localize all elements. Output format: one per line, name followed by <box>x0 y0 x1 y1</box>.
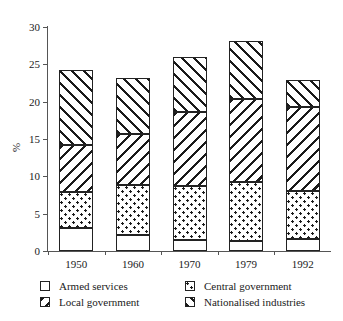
x-tick-mark <box>161 251 162 255</box>
legend-label: Armed services <box>59 281 128 292</box>
legend-entry-armed-services: Armed services <box>40 281 185 292</box>
bar-1992 <box>286 27 320 251</box>
bar-segment <box>229 99 263 183</box>
legend-entry-nationalised-industries: Nationalised industries <box>185 297 330 308</box>
bar-segment <box>229 182 263 240</box>
y-tick-mark <box>43 176 48 177</box>
legend-label: Local government <box>59 297 139 308</box>
x-tick-mark <box>105 251 106 255</box>
chart-legend: Armed services Central government Local … <box>40 278 330 310</box>
y-tick-label: 0 <box>2 246 40 257</box>
y-tick-mark <box>43 64 48 65</box>
bar-segment <box>286 239 320 251</box>
x-tick-mark <box>218 251 219 255</box>
x-tick-mark <box>274 251 275 255</box>
legend-entry-central-government: Central government <box>185 281 330 292</box>
bar-segment <box>173 186 207 240</box>
bar-segment <box>59 192 93 228</box>
y-tick-label: 25 <box>2 59 40 70</box>
stacked-bar-chart: % 05101520253019501960197019791992 Armed… <box>0 0 343 321</box>
x-tick-label: 1960 <box>103 259 163 270</box>
x-tick-label: 1992 <box>273 259 333 270</box>
bar-segment <box>173 57 207 112</box>
legend-row: Armed services Central government <box>40 278 330 294</box>
legend-swatch-plain-icon <box>40 281 50 291</box>
legend-entry-local-government: Local government <box>40 297 185 308</box>
bar-segment <box>286 191 320 240</box>
x-tick-label: 1970 <box>160 259 220 270</box>
bar-segment <box>286 107 320 191</box>
y-tick-mark <box>43 27 48 28</box>
bar-segment <box>116 235 150 251</box>
bar-1970 <box>173 27 207 251</box>
bar-1960 <box>116 27 150 251</box>
x-axis-line <box>47 251 331 252</box>
bar-1950 <box>59 27 93 251</box>
legend-label: Nationalised industries <box>204 297 305 308</box>
bar-segment <box>173 112 207 186</box>
y-tick-mark <box>43 139 48 140</box>
bar-segment <box>116 78 150 134</box>
bar-1979 <box>229 27 263 251</box>
bar-segment <box>229 241 263 251</box>
bar-segment <box>229 41 263 98</box>
bar-segment <box>59 70 93 145</box>
y-tick-label: 20 <box>2 97 40 108</box>
legend-row: Local government Nationalised industries <box>40 294 330 310</box>
y-tick-mark <box>43 214 48 215</box>
legend-swatch-backslash-icon <box>40 297 50 307</box>
bar-segment <box>116 185 150 234</box>
y-tick-label: 5 <box>2 209 40 220</box>
x-tick-label: 1950 <box>46 259 106 270</box>
bar-segment <box>173 240 207 251</box>
x-tick-label: 1979 <box>216 259 276 270</box>
y-tick-label: 10 <box>2 171 40 182</box>
bar-segment <box>59 228 93 251</box>
legend-swatch-slash-icon <box>185 297 195 307</box>
y-tick-label: 30 <box>2 22 40 33</box>
bar-segment <box>116 134 150 186</box>
legend-label: Central government <box>204 281 292 292</box>
legend-swatch-dots-icon <box>185 281 195 291</box>
bar-segment <box>59 145 93 192</box>
y-tick-label: 15 <box>2 134 40 145</box>
bar-segment <box>286 80 320 107</box>
x-tick-mark <box>48 251 49 255</box>
y-tick-mark <box>43 102 48 103</box>
plot-area: 05101520253019501960197019791992 <box>48 27 331 251</box>
